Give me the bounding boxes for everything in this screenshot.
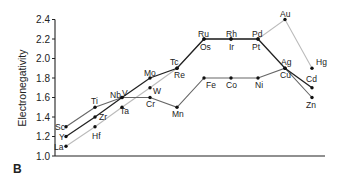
- y-axis-title: Electronegativity: [16, 49, 28, 127]
- element-label: Rh: [226, 29, 237, 39]
- data-point-Hg: [310, 67, 313, 70]
- panel-label: B: [13, 162, 22, 176]
- element-label: Hf: [92, 131, 101, 141]
- element-label: Sc: [55, 122, 66, 132]
- element-label: V: [122, 88, 128, 98]
- element-label: W: [153, 86, 161, 96]
- element-label: Cr: [146, 99, 155, 109]
- element-label: Mn: [172, 109, 184, 119]
- data-point-Cd: [310, 86, 313, 89]
- series-lines: [66, 20, 312, 147]
- data-point-W: [148, 86, 151, 89]
- element-label: La: [54, 142, 64, 152]
- element-label: Ti: [91, 96, 98, 106]
- element-label: Pd: [252, 29, 263, 39]
- y-axis: 1.01.21.41.61.82.02.22.4: [36, 14, 55, 162]
- y-tick-label: 2.0: [36, 53, 50, 64]
- series-points: [64, 18, 313, 148]
- element-label: Os: [200, 42, 211, 52]
- element-label: Co: [226, 80, 237, 90]
- electronegativity-chart: 1.01.21.41.61.82.02.22.4 Electronegativi…: [0, 0, 340, 179]
- element-label: Au: [280, 9, 291, 19]
- element-label: Mo: [144, 68, 156, 78]
- y-tick-label: 2.2: [36, 34, 50, 45]
- element-label: Nb: [110, 90, 121, 100]
- y-tick-label: 1.6: [36, 92, 50, 103]
- data-point-Zn: [310, 96, 313, 99]
- element-label: Re: [174, 70, 185, 80]
- y-tick-label: 1.8: [36, 73, 50, 84]
- element-label: Cd: [306, 74, 317, 84]
- element-label: Ni: [255, 80, 263, 90]
- element-label: Y: [59, 132, 65, 142]
- element-label: Cu: [280, 70, 291, 80]
- element-label: Ir: [229, 42, 234, 52]
- y-tick-label: 1.2: [36, 131, 50, 142]
- data-point-Ti: [93, 106, 96, 109]
- element-label: Ru: [198, 29, 209, 39]
- data-point-Y: [64, 135, 67, 138]
- data-point-Hf: [93, 125, 96, 128]
- element-label: Zn: [306, 100, 316, 110]
- element-label: Ag: [281, 57, 292, 67]
- point-labels: ScYLaTiZrHfNbVTaMoWCrTcReMnRuOsFeRhIrCoP…: [54, 9, 327, 152]
- data-point-La: [64, 145, 67, 148]
- y-tick-label: 1.0: [36, 151, 50, 162]
- element-label: Hg: [316, 57, 327, 67]
- element-label: Ta: [120, 106, 129, 116]
- series-line-5d: [66, 20, 312, 147]
- element-label: Tc: [170, 57, 179, 67]
- data-point-Zr: [93, 115, 96, 118]
- y-tick-label: 2.4: [36, 14, 50, 25]
- element-label: Pt: [252, 42, 261, 52]
- y-tick-label: 1.4: [36, 112, 50, 123]
- element-label: Zr: [99, 112, 107, 122]
- element-label: Fe: [206, 80, 216, 90]
